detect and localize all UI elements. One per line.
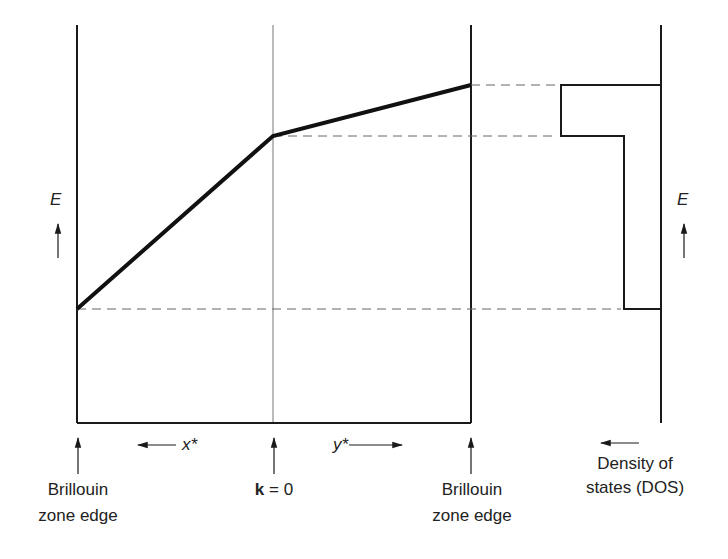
dos-profile (561, 85, 661, 309)
bz-edge-right-line1: Brillouin (412, 480, 532, 500)
y-star-label: y* (333, 435, 348, 455)
bz-edge-left-label: Brillouin zone edge (18, 480, 138, 526)
band-plot-frame (77, 25, 471, 423)
x-star-label: x* (182, 435, 197, 455)
energy-label-right: E (677, 190, 688, 210)
bz-edge-right-line2: zone edge (412, 506, 532, 526)
dos-label-line1: Density of (565, 454, 705, 474)
k0-equals: = 0 (264, 480, 293, 499)
dos-label-line2: states (DOS) (565, 478, 705, 498)
energy-guides (77, 85, 621, 309)
bz-edge-left-line1: Brillouin (18, 480, 138, 500)
dos-label: Density of states (DOS) (565, 454, 705, 498)
k0-label: k = 0 (234, 480, 314, 500)
bz-edge-right-label: Brillouin zone edge (412, 480, 532, 526)
k-vector-symbol: k (255, 480, 264, 499)
bz-edge-left-line2: zone edge (18, 506, 138, 526)
energy-label-left: E (50, 190, 61, 210)
band-dispersion-curve (77, 85, 471, 309)
